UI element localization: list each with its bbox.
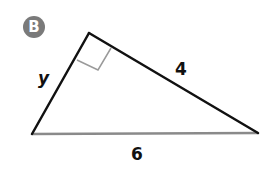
right-angle-marker	[77, 48, 111, 70]
base-side	[32, 133, 258, 134]
side-label-4: 4	[175, 61, 187, 78]
right-side	[89, 33, 258, 133]
side-label-6: 6	[131, 146, 143, 163]
triangle-figure: B y 4 6	[0, 0, 270, 176]
side-label-y: y	[38, 70, 49, 87]
